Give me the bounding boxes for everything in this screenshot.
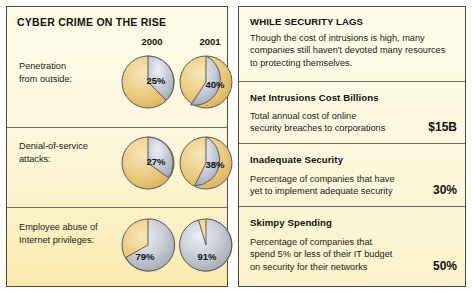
section-body-line-1: Total annual cost of online	[250, 110, 418, 122]
row-label-denial-of-service: Denial-of-service attacks:	[19, 140, 124, 165]
pie-value-label: 40%	[195, 79, 235, 90]
row-divider-1	[7, 127, 227, 128]
row-divider-2	[7, 207, 227, 208]
section-body-skimpy-spending: Percentage of companies that spend 5% or…	[250, 236, 418, 273]
row-label-line-1: Penetration	[19, 60, 124, 73]
section-heading-net-intrusions: Net Intrusions Cost Billions	[250, 92, 379, 103]
section-divider-1	[239, 81, 465, 82]
section-heading-inadequate-security: Inadequate Security	[250, 154, 343, 165]
section-body-line-1: Percentage of companies that have	[250, 173, 418, 185]
column-header-2000: 2000	[122, 36, 182, 47]
row-label-line-2: from outside:	[19, 73, 124, 86]
section-body-net-intrusions: Total annual cost of online security bre…	[250, 110, 418, 135]
row-label-line-2: Internet privileges:	[19, 234, 124, 247]
row-label-penetration: Penetration from outside:	[19, 60, 124, 85]
cyber-crime-panel: CYBER CRIME ON THE RISE 2000 2001 Penetr…	[6, 6, 228, 287]
section-heading-skimpy-spending: Skimpy Spending	[250, 217, 332, 228]
section-value-inadequate-security: 30%	[401, 183, 457, 197]
section-body-line-2: spend 5% or less of their IT budget	[250, 248, 418, 260]
pie-chart-employee-abuse-2000: 79%	[120, 217, 176, 273]
pie-chart-penetration-2000: 25%	[120, 54, 176, 110]
section-divider-2	[239, 143, 465, 144]
security-lags-panel: WHILE SECURITY LAGS Though the cost of i…	[238, 6, 466, 287]
section-divider-3	[239, 206, 465, 207]
section-body-line-2: yet to implement adequate security	[250, 185, 418, 197]
pie-value-label: 27%	[136, 156, 176, 167]
pie-chart-dos-2000: 27%	[120, 135, 176, 191]
section-body-inadequate-security: Percentage of companies that have yet to…	[250, 173, 418, 198]
row-label-employee-abuse: Employee abuse of Internet privileges:	[19, 221, 124, 246]
section-value-skimpy-spending: 50%	[401, 259, 457, 273]
pie-value-label: 79%	[125, 251, 165, 262]
right-panel-title: WHILE SECURITY LAGS	[250, 16, 363, 27]
row-label-line-2: attacks:	[19, 153, 124, 166]
section-value-net-intrusions: $15B	[401, 120, 457, 134]
pie-chart-employee-abuse-2001: 91%	[178, 217, 234, 273]
section-body-line-1: Percentage of companies that	[250, 236, 418, 248]
page-title: CYBER CRIME ON THE RISE	[17, 16, 166, 28]
row-label-line-1: Employee abuse of	[19, 221, 124, 234]
right-panel-intro: Though the cost of intrusions is high, m…	[250, 32, 455, 69]
pie-chart-penetration-2001: 40%	[178, 54, 234, 110]
pie-value-label: 38%	[195, 159, 235, 170]
pie-value-label: 91%	[187, 251, 227, 262]
section-body-line-3: on security for their networks	[250, 261, 418, 273]
infographic-canvas: CYBER CRIME ON THE RISE 2000 2001 Penetr…	[0, 0, 472, 293]
pie-value-label: 25%	[136, 75, 176, 86]
row-label-line-1: Denial-of-service	[19, 140, 124, 153]
pie-chart-dos-2001: 38%	[178, 135, 234, 191]
section-body-line-2: security breaches to corporations	[250, 122, 418, 134]
column-header-2001: 2001	[180, 36, 240, 47]
